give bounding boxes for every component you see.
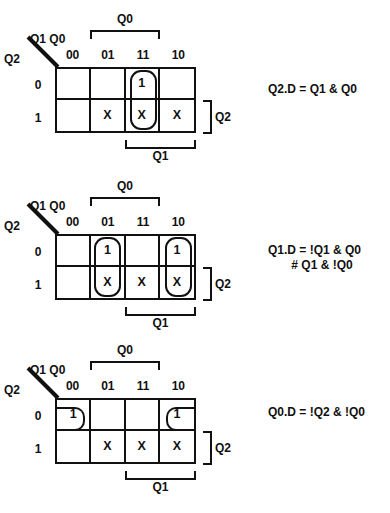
kmap-q0d: Q1 Q0 Q2 Q0 00 01 11 10 0 1 1 1 X X X Q1…: [0, 331, 260, 496]
kmap-cell: X: [126, 267, 160, 298]
corner-label-q1q0: Q1 Q0: [30, 199, 65, 213]
equation-q2d: Q2.D = Q1 & Q0: [268, 82, 357, 97]
kmap-cell: [126, 236, 160, 267]
kmap-cell: [91, 400, 125, 431]
kmap-cell: [57, 69, 91, 100]
top-bracket-q0: [90, 30, 160, 39]
column-header-01: 01: [90, 48, 125, 62]
corner-label-q1q0: Q1 Q0: [30, 32, 65, 46]
column-header-11: 11: [126, 215, 161, 229]
kmap-cell: 1: [91, 236, 125, 267]
right-bracket-q2: [203, 431, 212, 465]
column-header-11: 11: [126, 379, 161, 393]
right-bracket-q2: [203, 267, 212, 301]
kmap-cell: X: [91, 431, 125, 462]
top-bracket-label-q0: Q0: [90, 343, 160, 357]
top-bracket-label-q0: Q0: [90, 179, 160, 193]
kmap-cell: [160, 69, 194, 100]
row-header-1: 1: [28, 442, 48, 456]
kmap-cell: X: [126, 100, 160, 131]
bottom-bracket-label-q1: Q1: [125, 480, 196, 494]
bottom-bracket-q1: [125, 471, 196, 480]
kmap-cell: [57, 236, 91, 267]
kmap-grid: 1 X X X: [55, 67, 196, 133]
equation-q1d: Q1.D = !Q1 & Q0 # Q1 & !Q0: [268, 243, 361, 273]
column-header-01: 01: [90, 215, 125, 229]
kmap-cell: X: [160, 267, 194, 298]
kmap-cell: 1: [160, 400, 194, 431]
top-bracket-q0: [90, 361, 160, 370]
column-header-00: 00: [55, 215, 90, 229]
row-header-0: 0: [28, 245, 48, 259]
corner-label-q2: Q2: [4, 52, 20, 66]
row-header-0: 0: [28, 78, 48, 92]
bottom-bracket-label-q1: Q1: [125, 149, 196, 163]
column-header-10: 10: [161, 379, 196, 393]
right-bracket-label-q2: Q2: [215, 110, 231, 124]
kmap-grid: 1 1 X X X: [55, 234, 196, 300]
kmap-cell: X: [126, 431, 160, 462]
column-header-00: 00: [55, 48, 90, 62]
row-header-0: 0: [28, 409, 48, 423]
right-bracket-label-q2: Q2: [215, 441, 231, 455]
corner-label-q1q0: Q1 Q0: [30, 363, 65, 377]
kmap-cell: [126, 400, 160, 431]
row-header-1: 1: [28, 278, 48, 292]
bottom-bracket-q1: [125, 307, 196, 316]
kmap-q1d: Q1 Q0 Q2 Q0 00 01 11 10 0 1 1 1 X X X Q1…: [0, 167, 260, 332]
kmap-q2d: Q1 Q0 Q2 Q0 00 01 11 10 0 1 1 X X X Q1 Q…: [0, 0, 260, 165]
column-header-10: 10: [161, 215, 196, 229]
kmap-cell: X: [91, 100, 125, 131]
kmap-cell: X: [91, 267, 125, 298]
kmap-cell: [57, 267, 91, 298]
equation-q0d: Q0.D = !Q2 & !Q0: [268, 405, 365, 420]
kmap-cell: [57, 431, 91, 462]
right-bracket-label-q2: Q2: [215, 277, 231, 291]
column-header-11: 11: [126, 48, 161, 62]
right-bracket-q2: [203, 100, 212, 134]
kmap-cell: 1: [126, 69, 160, 100]
bottom-bracket-q1: [125, 140, 196, 149]
kmap-cell: [91, 69, 125, 100]
kmap-cell: 1: [57, 400, 91, 431]
column-header-01: 01: [90, 379, 125, 393]
top-bracket-label-q0: Q0: [90, 12, 160, 26]
kmap-cell: X: [160, 100, 194, 131]
column-header-10: 10: [161, 48, 196, 62]
kmap-cell: X: [160, 431, 194, 462]
corner-label-q2: Q2: [4, 383, 20, 397]
row-header-1: 1: [28, 111, 48, 125]
column-header-00: 00: [55, 379, 90, 393]
kmap-grid: 1 1 X X X: [55, 398, 196, 464]
bottom-bracket-label-q1: Q1: [125, 316, 196, 330]
top-bracket-q0: [90, 197, 160, 206]
kmap-cell: [57, 100, 91, 131]
kmap-cell: 1: [160, 236, 194, 267]
corner-label-q2: Q2: [4, 219, 20, 233]
